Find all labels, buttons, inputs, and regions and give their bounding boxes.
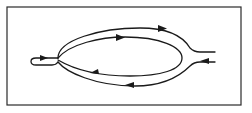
arrow-right-inlet-icon xyxy=(200,58,209,64)
outer-loop-top xyxy=(58,28,215,58)
flow-loop-diagram xyxy=(0,0,252,113)
arrow-inner-bottom-icon xyxy=(90,69,99,74)
arrow-outer-bottom-icon xyxy=(125,82,134,88)
arrow-inner-top-icon xyxy=(116,34,125,41)
inner-loop xyxy=(58,37,182,76)
arrow-left-inlet-icon xyxy=(40,55,48,61)
outer-loop-bottom xyxy=(58,62,215,86)
